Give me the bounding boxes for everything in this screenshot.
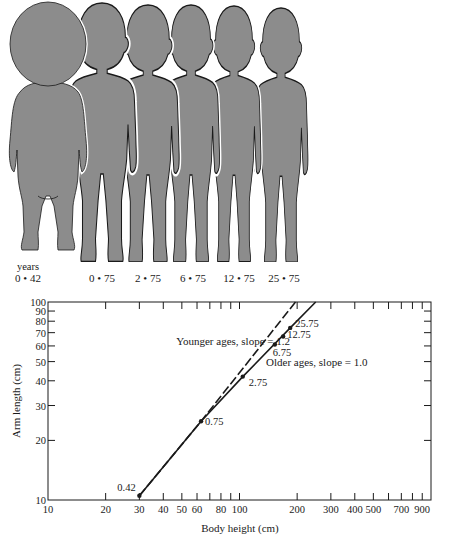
age-label-0-42: 0 • 42 (8, 272, 48, 284)
annotation-older-ages: Older ages, slope = 1.0 (266, 356, 368, 368)
x-tick-label: 500 (365, 504, 381, 515)
y-tick-label: 80 (36, 316, 47, 327)
y-tick-label: 100 (30, 297, 46, 308)
x-tick-label: 100 (232, 504, 248, 515)
age-label-25-75: 25 • 75 (254, 272, 314, 284)
years-label: years (8, 261, 48, 272)
child-growth-silhouettes (0, 0, 451, 262)
x-tick-label: 30 (134, 504, 145, 515)
y-tick-label: 70 (36, 328, 47, 339)
y-tick-label: 30 (36, 401, 47, 412)
data-point-label: 0.42 (117, 482, 135, 493)
x-tick-label: 40 (158, 504, 169, 515)
plot-axes (48, 302, 431, 500)
y-tick-label: 60 (36, 341, 47, 352)
y-tick-label: 40 (36, 376, 47, 387)
data-point-label: 2.75 (249, 377, 267, 388)
data-point (199, 419, 203, 423)
x-tick-label: 50 (177, 504, 188, 515)
x-tick-label: 400 (347, 504, 363, 515)
x-tick-label: 80 (216, 504, 227, 515)
x-axis-label: Body height (cm) (201, 522, 279, 535)
y-tick-label: 20 (36, 435, 47, 446)
y-axis-label: Arm length (cm) (10, 364, 23, 438)
y-tick-label: 10 (36, 495, 47, 506)
data-point-label: 0.75 (205, 416, 223, 427)
silhouette-0-42-newborn (9, 2, 86, 250)
x-tick-label: 900 (414, 504, 430, 515)
arm-length-vs-body-height-chart: 1020304050608010020030040050070090010203… (0, 290, 451, 553)
x-tick-label: 60 (192, 504, 203, 515)
x-tick-label: 300 (323, 504, 339, 515)
plot-frame (48, 302, 431, 500)
data-point-label: 25.75 (295, 318, 319, 329)
y-tick-label: 50 (36, 357, 47, 368)
x-tick-label: 20 (100, 504, 111, 515)
plot-labels: 1020304050608010020030040050070090010203… (30, 297, 430, 515)
data-point (241, 374, 245, 378)
data-point (137, 494, 141, 498)
annotation-younger-ages: Younger ages, slope = 1.2 (176, 335, 290, 347)
series-line (139, 421, 201, 496)
data-point-label: 12.75 (287, 329, 311, 340)
x-tick-label: 700 (393, 504, 409, 515)
x-tick-label: 200 (289, 504, 305, 515)
